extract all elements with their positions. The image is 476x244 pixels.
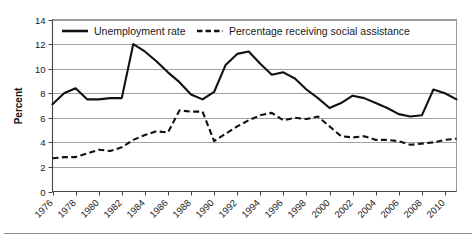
y-tick-label-6: 6 — [40, 113, 45, 124]
y-tick-label-4: 4 — [40, 137, 45, 148]
legend-label-unemployment-rate: Unemployment rate — [94, 25, 186, 37]
legend-label-social-assistance: Percentage receiving social assistance — [229, 25, 410, 37]
y-tick-label-10: 10 — [35, 64, 46, 75]
line-chart: 02468101214 1976197819801982198419861988… — [0, 0, 476, 244]
y-tick-label-0: 0 — [40, 187, 45, 198]
y-tick-label-8: 8 — [40, 88, 45, 99]
y-axis-title: Percent — [13, 87, 24, 124]
y-tick-label-14: 14 — [35, 15, 46, 26]
y-tick-label-2: 2 — [40, 162, 45, 173]
chart-legend: Unemployment rate Percentage receiving s… — [62, 25, 410, 37]
chart-figure: 02468101214 1976197819801982198419861988… — [0, 0, 476, 244]
y-tick-label-12: 12 — [35, 39, 46, 50]
